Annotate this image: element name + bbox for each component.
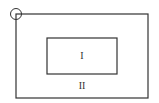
- region-label-ii: II: [79, 80, 86, 91]
- region-diagram: I II: [0, 0, 159, 103]
- region-label-i: I: [80, 50, 83, 61]
